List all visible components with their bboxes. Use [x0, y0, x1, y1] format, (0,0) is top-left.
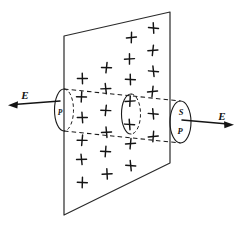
field-label-left: E	[20, 89, 28, 101]
charge-plus-vertical	[129, 119, 130, 129]
figure-canvas: E E P S P	[0, 0, 240, 235]
charge-plus-vertical	[152, 45, 153, 55]
right-cap-label-s: S	[179, 107, 184, 117]
charge-plus-vertical	[107, 169, 108, 179]
charge-marks-group	[76, 23, 158, 188]
charge-plus-vertical	[106, 62, 107, 72]
charge-plus-vertical	[105, 83, 106, 93]
field-arrow-right-head	[224, 121, 234, 128]
charge-plus-vertical	[82, 135, 83, 145]
charge-plus-vertical	[130, 160, 131, 170]
charge-plus-vertical	[82, 112, 83, 122]
right-cap-label-p: P	[177, 126, 183, 136]
charge-plus-vertical	[130, 96, 131, 106]
field-arrow-right	[182, 120, 234, 128]
charge-plus-vertical	[153, 131, 154, 141]
charge-plus-vertical	[81, 154, 82, 164]
field-arrow-left	[8, 101, 60, 108]
left-cap-label-p: P	[58, 108, 63, 117]
field-label-right: E	[217, 110, 225, 122]
field-arrow-left-shaft	[14, 101, 60, 105]
charge-plus-vertical	[152, 86, 153, 96]
field-arrow-left-head	[8, 101, 18, 108]
charge-plus-vertical	[105, 105, 106, 115]
charge-plus-vertical	[153, 23, 154, 33]
charge-plus-vertical	[81, 92, 82, 102]
left-cap-hidden-arc	[64, 89, 74, 131]
mid-cap-hidden-arc	[131, 94, 141, 134]
charge-plus-vertical	[153, 66, 154, 76]
charge-plus-vertical	[130, 139, 131, 149]
charge-plus-vertical	[105, 146, 106, 156]
charge-plus-vertical	[153, 109, 154, 119]
physics-figure: E E P S P	[0, 0, 240, 235]
